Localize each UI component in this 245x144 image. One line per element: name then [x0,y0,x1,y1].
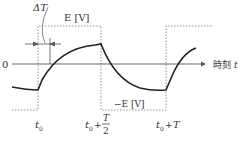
svg-text:0: 0 [39,125,43,132]
time-axis-label: 時刻 t [213,59,238,70]
square-wave-dotted [12,26,212,110]
delta-t-indicator [25,7,61,64]
positive-level-label: E [V] [64,12,90,23]
svg-text:t: t [234,60,238,70]
t0-plus-half-period-label: t 0 + T 2 [85,113,110,136]
t0-plus-period-label: t 0 + T [156,119,181,132]
zero-label: 0 [2,59,8,70]
svg-text:T: T [103,113,110,123]
svg-text:0: 0 [89,125,93,132]
waveform-diagram: ΔT E [V] 0 時刻 t −E [V] t 0 t 0 + T 2 t 0… [0,0,245,144]
svg-text:2: 2 [103,126,109,136]
t0-label: t 0 [35,119,43,132]
response-curve [12,44,196,90]
svg-text:+: + [94,120,102,130]
delta-t-label: ΔT [32,2,48,13]
svg-text:0: 0 [160,125,164,132]
svg-text:T: T [173,119,181,130]
svg-text:時刻: 時刻 [213,59,231,70]
svg-text:+: + [165,120,173,130]
negative-level-label: −E [V] [114,99,145,109]
